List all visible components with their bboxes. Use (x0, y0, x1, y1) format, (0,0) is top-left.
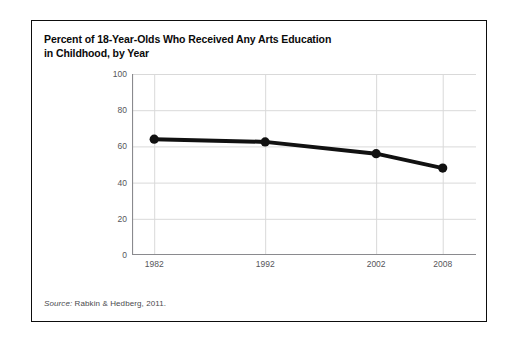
y-tick-label-40: 40 (118, 178, 127, 188)
chart-title: Percent of 18-Year-Olds Who Received Any… (44, 33, 404, 60)
y-tick-label-20: 20 (118, 214, 127, 224)
data-point-2008 (438, 164, 447, 173)
series-line-group (154, 139, 443, 168)
source-citation: Rabkin & Hedberg, 2011. (72, 299, 166, 308)
x-tick-label-1982: 1982 (145, 259, 164, 269)
source-label: Source: (44, 299, 72, 308)
plot-area: 020406080100 1982199220022008 (132, 74, 476, 255)
x-tick-label-1992: 1992 (256, 259, 275, 269)
line-chart-canvas (132, 74, 476, 255)
y-tick-label-80: 80 (118, 105, 127, 115)
source-note: Source: Rabkin & Hedberg, 2011. (44, 299, 166, 308)
series-line (154, 139, 443, 168)
x-tick-label-2002: 2002 (367, 259, 386, 269)
vertical-gridlines (155, 74, 444, 255)
figure-frame: Percent of 18-Year-Olds Who Received Any… (31, 20, 487, 322)
x-tick-label-2008: 2008 (433, 259, 452, 269)
data-point-1982 (150, 135, 159, 144)
y-tick-label-0: 0 (122, 250, 127, 260)
data-point-2002 (372, 149, 381, 158)
y-tick-label-60: 60 (118, 141, 127, 151)
y-tick-label-100: 100 (113, 69, 127, 79)
data-point-1992 (261, 137, 270, 146)
